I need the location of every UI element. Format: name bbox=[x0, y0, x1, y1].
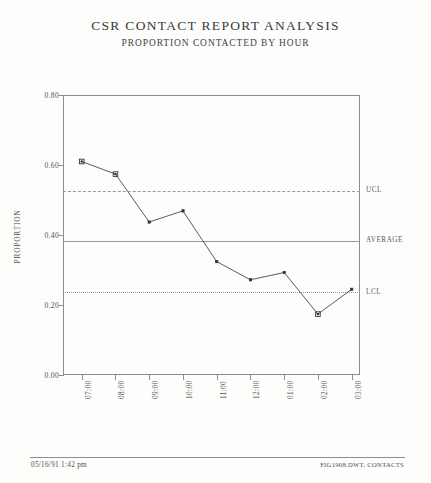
data-point bbox=[351, 288, 353, 290]
data-point-core bbox=[317, 313, 319, 315]
data-point bbox=[148, 221, 150, 223]
data-point-core bbox=[114, 173, 116, 175]
chart-page: CSR CONTACT REPORT ANALYSIS PROPORTION C… bbox=[0, 0, 431, 483]
series-line bbox=[82, 162, 352, 315]
footer-divider bbox=[30, 457, 405, 458]
data-point bbox=[283, 271, 285, 273]
data-point-core bbox=[81, 160, 83, 162]
footer-source: FIG1908.DWT, CONTACTS bbox=[320, 461, 404, 468]
data-point bbox=[249, 279, 251, 281]
footer-timestamp: 05/16/91 1:42 pm bbox=[31, 461, 87, 469]
data-series-layer bbox=[0, 0, 431, 483]
data-point bbox=[182, 210, 184, 212]
data-point bbox=[216, 260, 218, 262]
